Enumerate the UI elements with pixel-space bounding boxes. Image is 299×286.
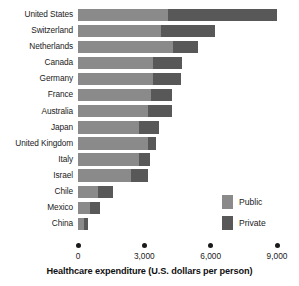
country-label: China (0, 217, 73, 230)
stacked-bar (78, 218, 88, 230)
chart-row: United Kingdom (0, 137, 299, 153)
country-label: Canada (0, 56, 73, 69)
country-label: Germany (0, 72, 73, 85)
healthcare-expenditure-chart: United StatesSwitzerlandNetherlandsCanad… (0, 0, 299, 286)
axis-tick-label: 0 (76, 251, 81, 262)
bar-segment-public (78, 105, 148, 117)
country-label: Switzerland (0, 24, 73, 37)
bar-segment-public (78, 137, 148, 149)
chart-row: Switzerland (0, 24, 299, 40)
stacked-bar (78, 121, 159, 133)
bar-segment-private (131, 169, 148, 181)
legend-swatch-icon (222, 216, 233, 230)
stacked-bar (78, 105, 172, 117)
chart-row: United States (0, 8, 299, 24)
axis-tick-dot (142, 243, 147, 248)
stacked-bar (78, 186, 113, 198)
stacked-bar (78, 169, 148, 181)
bar-segment-public (78, 186, 98, 198)
legend-swatch-icon (222, 195, 233, 209)
bar-segment-public (78, 89, 151, 101)
chart-row: Canada (0, 56, 299, 72)
axis-tick-dot (275, 243, 280, 248)
bar-segment-private (173, 41, 198, 53)
stacked-bar (78, 153, 150, 165)
axis-tick-label: 9,000 (267, 251, 288, 262)
chart-row: Japan (0, 121, 299, 137)
chart-row: Netherlands (0, 40, 299, 56)
stacked-bar (78, 57, 182, 69)
country-label: Italy (0, 153, 73, 166)
country-label: United Kingdom (0, 137, 73, 150)
chart-row: Israel (0, 169, 299, 185)
bar-segment-private (84, 218, 88, 230)
country-label: Japan (0, 121, 73, 134)
stacked-bar (78, 202, 100, 214)
chart-row: Australia (0, 105, 299, 121)
axis-tick-label: 6,000 (200, 251, 221, 262)
country-label: Israel (0, 169, 73, 182)
bar-segment-private (90, 202, 100, 214)
bar-segment-private (151, 89, 172, 101)
axis-tick-dot (208, 243, 213, 248)
axis-tick-label: 3,000 (134, 251, 155, 262)
x-axis-title: Healthcare expenditure (U.S. dollars per… (0, 266, 299, 276)
stacked-bar (78, 137, 156, 149)
bar-segment-private (168, 9, 277, 21)
bar-segment-public (78, 121, 139, 133)
stacked-bar (78, 89, 172, 101)
bar-segment-private (153, 57, 182, 69)
country-label: United States (0, 8, 73, 21)
stacked-bar (78, 9, 277, 21)
country-label: Australia (0, 105, 73, 118)
bar-segment-public (78, 41, 173, 53)
bar-segment-private (98, 186, 113, 198)
chart-row: France (0, 88, 299, 104)
bar-segment-public (78, 25, 161, 37)
bar-segment-private (148, 105, 172, 117)
axis-tick-dot (76, 243, 81, 248)
stacked-bar (78, 25, 215, 37)
legend-label: Private (239, 217, 266, 229)
bar-segment-public (78, 202, 90, 214)
bar-segment-private (161, 25, 215, 37)
bar-segment-public (78, 9, 168, 21)
chart-row: Italy (0, 153, 299, 169)
stacked-bar (78, 41, 199, 53)
country-label: France (0, 88, 73, 101)
bar-segment-private (139, 153, 150, 165)
country-label: Mexico (0, 201, 73, 214)
bar-segment-public (78, 57, 153, 69)
bar-segment-public (78, 153, 139, 165)
bar-segment-private (148, 137, 157, 149)
country-label: Chile (0, 185, 73, 198)
bar-segment-private (153, 73, 181, 85)
bar-segment-public (78, 73, 153, 85)
x-axis: 03,0006,0009,000 (0, 243, 299, 267)
bar-segment-private (139, 121, 159, 133)
legend-label: Public (239, 196, 262, 208)
stacked-bar (78, 73, 181, 85)
chart-row: Germany (0, 72, 299, 88)
bar-segment-public (78, 169, 131, 181)
country-label: Netherlands (0, 40, 73, 53)
